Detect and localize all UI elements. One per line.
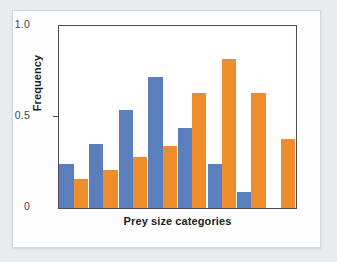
bar-orange-2 [103,170,117,208]
bar-orange-7 [251,93,265,208]
bar-orange-1 [74,179,88,208]
y-tick-mark-0.5 [53,116,58,117]
bar-orange-4 [163,146,177,208]
y-tick-label-0: 0 [0,200,30,212]
bars-layer [59,26,296,208]
bar-blue-5 [178,128,192,208]
x-axis-label: Prey size categories [58,215,297,227]
bar-blue-3 [119,110,133,208]
bar-blue-1 [59,164,73,208]
bar-blue-7 [237,192,251,208]
bar-orange-3 [133,157,147,208]
plot-area [58,25,297,209]
bar-orange-5 [192,93,206,208]
figure-card: Frequency Prey size categories 1.00.50 [12,10,321,248]
bar-orange-8 [281,139,295,208]
bar-blue-2 [89,144,103,208]
y-tick-label-1.0: 1.0 [0,18,30,30]
bar-blue-6 [208,164,222,208]
bar-blue-4 [148,77,162,208]
bar-orange-6 [222,59,236,208]
y-axis-label: Frequency [31,23,43,143]
y-tick-label-0.5: 0.5 [0,109,30,121]
